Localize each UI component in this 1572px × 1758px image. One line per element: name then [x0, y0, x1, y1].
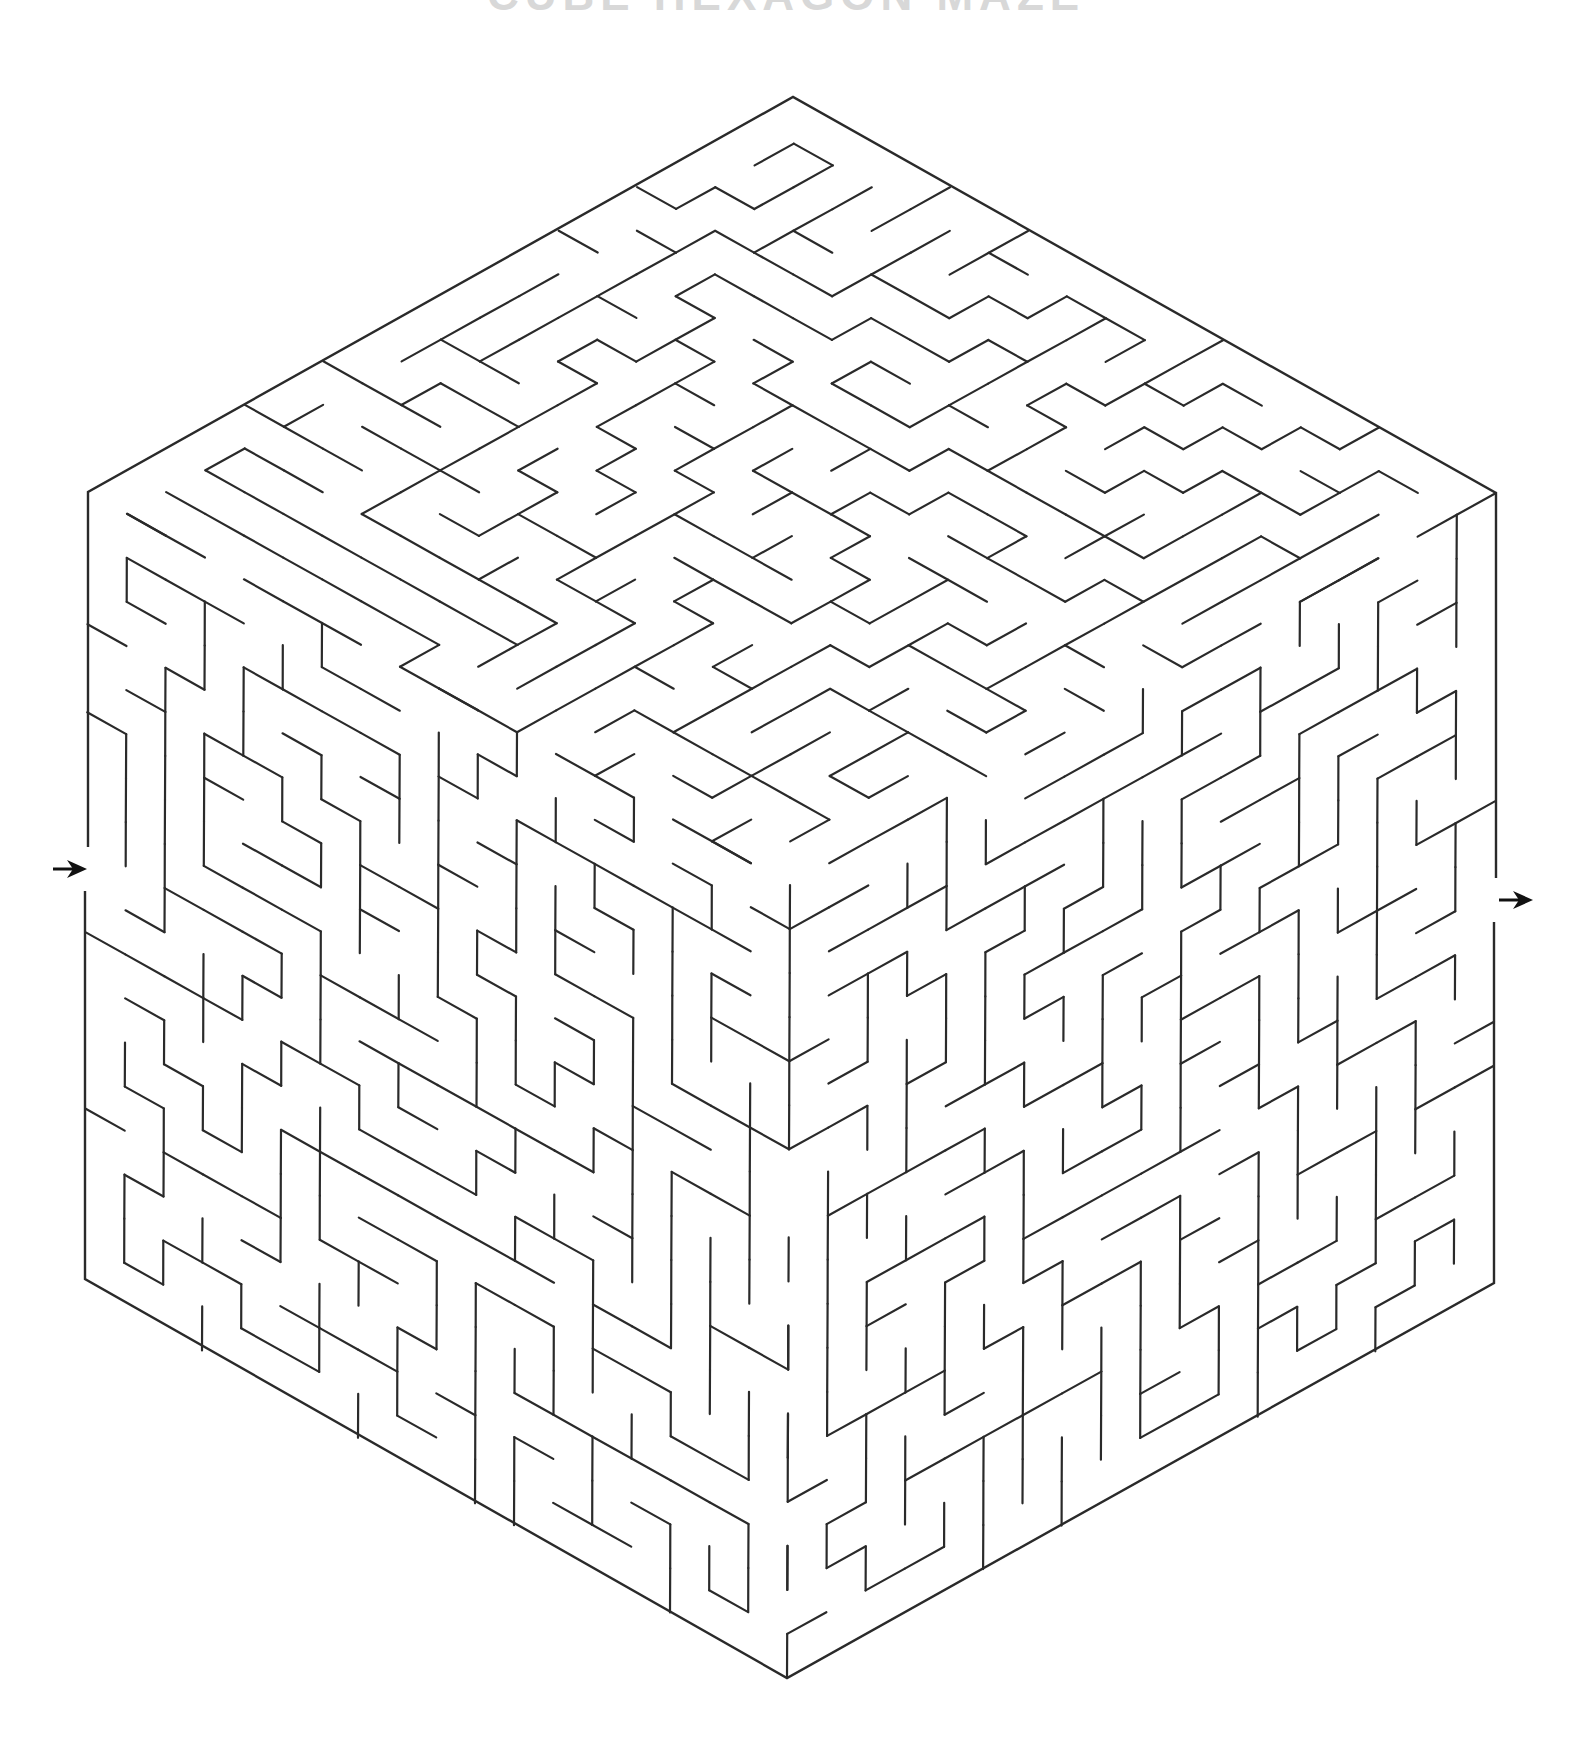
- maze-board[interactable]: [0, 0, 1572, 1758]
- exit-arrow-icon: [1499, 891, 1533, 909]
- entrance-arrow-icon: [53, 860, 87, 878]
